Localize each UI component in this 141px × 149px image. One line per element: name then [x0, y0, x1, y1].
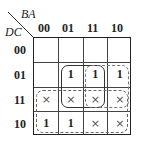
row-variable-label: DC: [5, 26, 22, 38]
col-label-11: 11: [87, 22, 98, 34]
cell-r1-c0: [34, 63, 59, 88]
col-label-00: 00: [38, 22, 50, 34]
col-label-01: 01: [62, 22, 74, 34]
cell-r0-c2: [83, 38, 108, 63]
row-label-01: 01: [14, 69, 26, 81]
karnaugh-map-grid: 1 1 1 × × × × 1 1 × ×: [33, 37, 131, 135]
cell-r0-c1: [59, 38, 84, 63]
col-label-10: 10: [111, 22, 123, 34]
col-variable-label: BA: [21, 8, 36, 20]
cell-r0-c3: [108, 38, 133, 63]
row-label-11: 11: [14, 94, 25, 106]
row-label-10: 10: [14, 118, 26, 130]
cell-r0-c0: [34, 38, 59, 63]
group-loop-dashed: [36, 90, 128, 133]
row-label-00: 00: [14, 44, 26, 56]
